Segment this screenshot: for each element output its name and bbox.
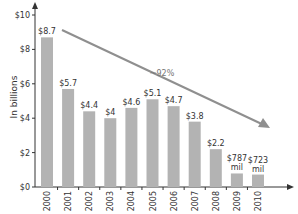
bar-2004 [125, 108, 137, 187]
y-tick-label: $6 [20, 80, 30, 89]
y-tick-label: $2 [20, 149, 30, 158]
data-label: $2.2 [207, 139, 225, 148]
bar-2000 [41, 37, 53, 187]
x-tick-label: 2007 [191, 191, 200, 211]
y-tick-label: $10 [15, 11, 30, 20]
data-label: $8.7 [38, 27, 56, 36]
x-axis-arrow-icon [287, 184, 294, 190]
data-label: $787 [227, 154, 247, 163]
bar-chart: $0$2$4$6$8$10$8.72000$5.72001$4.42002$42… [0, 0, 298, 214]
x-tick-label: 2008 [212, 191, 221, 211]
x-tick-label: 2000 [43, 191, 52, 211]
data-label: $4 [105, 108, 115, 117]
bar-2009 [231, 173, 243, 187]
bar-2006 [168, 106, 180, 187]
data-label: mil [231, 163, 243, 172]
x-tick-label: 2003 [106, 191, 115, 211]
y-tick-label: $0 [20, 183, 30, 192]
data-label: $4.7 [165, 96, 183, 105]
data-label: $3.8 [186, 112, 204, 121]
bar-2001 [62, 89, 74, 187]
trend-annotation: ~92% [150, 69, 175, 78]
x-tick-label: 2006 [170, 191, 179, 211]
data-label: $723 [248, 156, 268, 165]
data-label: mil [252, 165, 264, 174]
data-label: $5.7 [59, 79, 77, 88]
bar-2008 [210, 149, 222, 187]
data-label: $4.4 [80, 101, 98, 110]
x-tick-label: 2002 [85, 191, 94, 211]
bar-2005 [147, 99, 159, 187]
x-tick-label: 2001 [64, 191, 73, 211]
y-tick-label: $8 [20, 45, 30, 54]
data-label: $4.6 [122, 98, 140, 107]
x-tick-label: 2005 [149, 191, 158, 211]
bar-2003 [104, 118, 116, 187]
bar-2010 [252, 175, 264, 187]
y-axis-arrow-icon [32, 2, 38, 9]
y-tick-label: $4 [20, 114, 30, 123]
bar-2002 [83, 111, 95, 187]
x-tick-label: 2009 [233, 191, 242, 211]
x-tick-label: 2004 [127, 191, 136, 211]
x-tick-label: 2010 [254, 191, 263, 211]
data-label: $5.1 [144, 89, 162, 98]
bar-2007 [189, 122, 201, 187]
